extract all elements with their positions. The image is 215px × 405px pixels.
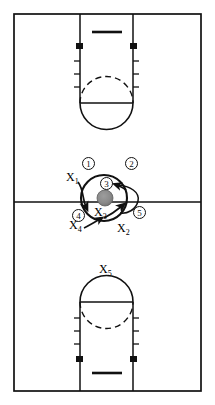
player-1[interactable]: 1 — [82, 157, 95, 170]
defender-x3-sub: 3 — [103, 212, 107, 221]
defender-x5-sub: 5 — [108, 269, 112, 278]
defender-x4-letter: X — [69, 218, 78, 232]
defender-x2[interactable]: X2 — [117, 222, 130, 237]
player-5[interactable]: 5 — [133, 206, 146, 219]
bottom-rim-block-right — [130, 356, 137, 362]
defender-x2-letter: X — [117, 221, 126, 235]
defender-x1[interactable]: X1 — [66, 171, 79, 186]
defender-x3-letter: X — [94, 205, 103, 219]
defender-x5-letter: X — [99, 262, 108, 276]
bottom-rim-block-left — [76, 356, 83, 362]
defender-x1-sub: 1 — [75, 177, 79, 186]
defender-x5[interactable]: X5 — [99, 263, 112, 278]
player-2[interactable]: 2 — [125, 157, 138, 170]
player-3[interactable]: 3 — [100, 177, 113, 190]
defender-x3[interactable]: X3 — [94, 206, 107, 221]
defender-x4-sub: 4 — [78, 225, 82, 234]
defender-x4[interactable]: X4 — [69, 219, 82, 234]
ball — [97, 190, 113, 206]
defender-x2-sub: 2 — [126, 228, 130, 237]
top-rim-block-left — [76, 43, 83, 49]
court-graphic — [0, 0, 215, 405]
play-diagram: 1 2 3 4 5 X1 X2 X3 X4 X5 — [0, 0, 215, 405]
top-rim-block-right — [130, 43, 137, 49]
defender-x1-letter: X — [66, 170, 75, 184]
